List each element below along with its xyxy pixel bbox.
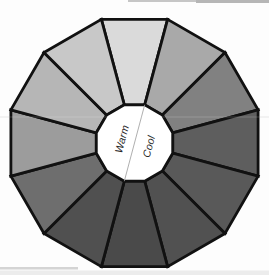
scan-artifact-bottom-band xyxy=(0,271,269,275)
scan-artifact-overlay-line xyxy=(0,117,269,118)
scan-artifact-bottom-streak xyxy=(0,267,78,270)
scan-artifact-top-streak-left xyxy=(128,0,197,2)
color-wheel-figure: Warm Cool xyxy=(0,0,269,275)
color-wheel-svg: Warm Cool xyxy=(0,0,269,275)
scan-artifact-top-streak-right xyxy=(196,0,269,3)
